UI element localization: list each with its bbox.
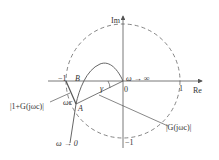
leader-g (99, 95, 168, 126)
gamma-arc (108, 81, 110, 88)
gamma-label: γ (100, 84, 104, 93)
tick-neg-im: −1 (125, 138, 134, 147)
im-label: Im (111, 16, 121, 25)
point-a: A (77, 104, 83, 113)
omega-zero-label: ω → 0 (56, 139, 78, 148)
origin-label: 0 (124, 85, 128, 94)
tick-neg-re: −1 (58, 74, 67, 83)
tick-pos-re: 1 (179, 84, 183, 93)
g-magnitude-label: |G(jωc)| (166, 123, 191, 132)
omega-inf-label: ω → ∞ (126, 74, 150, 83)
omega-c-label: ωc (63, 98, 73, 107)
point-b: B (75, 74, 80, 83)
re-label: Re (193, 86, 202, 95)
nyquist-diagram: Im Re 0 1 −1 −1 B A ωc ω → ∞ ω → 0 γ |1+… (0, 0, 219, 160)
one-plus-g-label: |1+G(jωc)| (10, 102, 44, 111)
